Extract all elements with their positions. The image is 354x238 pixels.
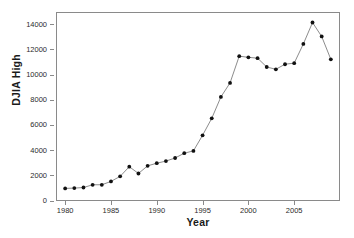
x-tick-label: 2005 bbox=[274, 206, 314, 216]
x-tick-label: 2000 bbox=[228, 206, 268, 216]
plot-frame-border bbox=[56, 12, 340, 201]
x-tick-label: 1985 bbox=[91, 206, 131, 216]
y-tick-8000: 8000 bbox=[0, 95, 54, 105]
x-tick-label: 1995 bbox=[183, 206, 223, 216]
y-tick-label: 12000 bbox=[26, 45, 47, 55]
y-tick-mark bbox=[50, 49, 54, 50]
y-tick-2000: 2000 bbox=[0, 171, 54, 181]
y-tick-label: 10000 bbox=[26, 70, 47, 80]
x-tick-mark bbox=[65, 201, 66, 205]
y-tick-mark bbox=[50, 125, 54, 126]
x-tick-mark bbox=[203, 201, 204, 205]
x-tick-mark bbox=[111, 201, 112, 205]
y-tick-14000: 14000 bbox=[0, 20, 54, 30]
y-axis-title: DJIA High bbox=[10, 20, 22, 140]
x-tick-label: 1980 bbox=[45, 206, 85, 216]
chart-screenshot: 02000400060008000100001200014000 1980198… bbox=[0, 0, 354, 238]
x-tick-mark bbox=[248, 201, 249, 205]
y-tick-label: 4000 bbox=[30, 146, 47, 156]
y-tick-mark bbox=[50, 100, 54, 101]
y-tick-mark bbox=[50, 150, 54, 151]
y-tick-10000: 10000 bbox=[0, 70, 54, 80]
y-tick-label: 8000 bbox=[30, 95, 47, 105]
y-tick-mark bbox=[50, 175, 54, 176]
x-tick-mark bbox=[157, 201, 158, 205]
y-tick-12000: 12000 bbox=[0, 45, 54, 55]
y-tick-label: 14000 bbox=[26, 20, 47, 30]
x-tick-mark bbox=[294, 201, 295, 205]
x-axis-title: Year bbox=[56, 216, 340, 228]
y-tick-label: 6000 bbox=[30, 120, 47, 130]
y-tick-mark bbox=[50, 75, 54, 76]
y-tick-mark bbox=[50, 24, 54, 25]
x-tick-label: 1990 bbox=[137, 206, 177, 216]
y-tick-label: 2000 bbox=[30, 171, 47, 181]
y-tick-6000: 6000 bbox=[0, 120, 54, 130]
y-tick-4000: 4000 bbox=[0, 146, 54, 156]
